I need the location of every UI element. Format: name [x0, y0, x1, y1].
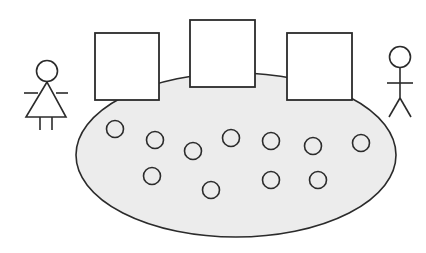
male-left-leg — [389, 98, 400, 117]
female-stick-figure — [24, 61, 68, 131]
diagram-canvas — [0, 0, 426, 253]
male-right-leg — [400, 98, 411, 117]
box-3 — [287, 33, 352, 100]
box-1 — [95, 33, 159, 100]
male-head-icon — [390, 47, 411, 68]
box-2 — [190, 20, 255, 87]
diagram-svg — [0, 0, 426, 253]
female-head-icon — [37, 61, 58, 82]
male-stick-figure — [387, 47, 413, 118]
female-dress-icon — [26, 82, 66, 117]
